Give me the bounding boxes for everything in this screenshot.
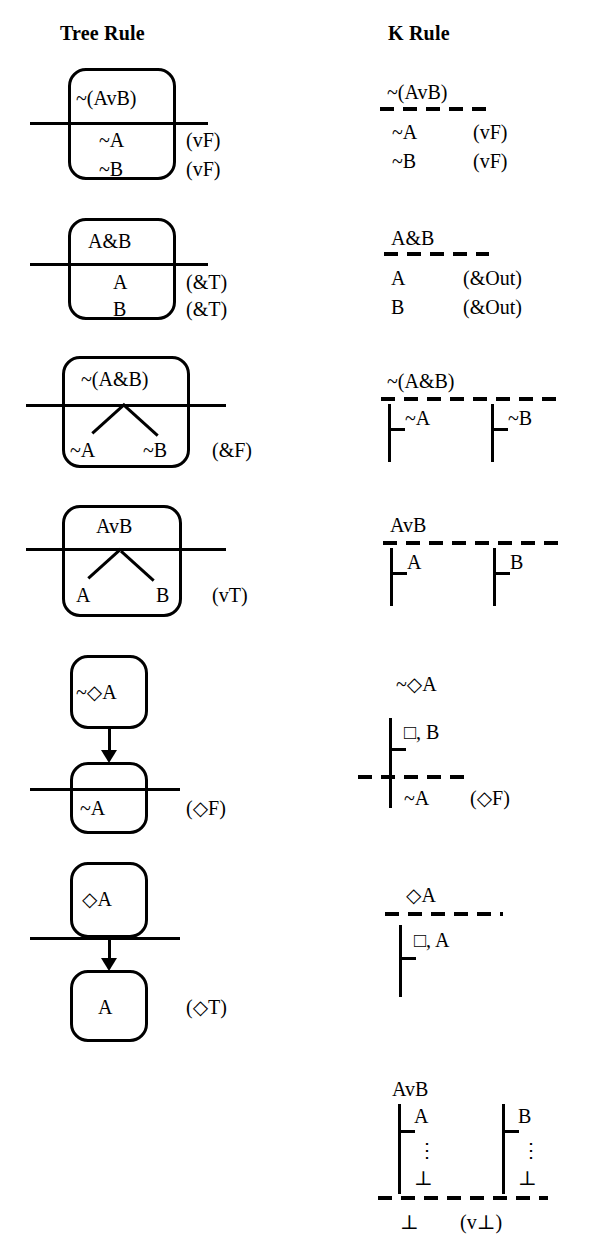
- tree-premise: ◇A: [82, 889, 112, 909]
- k-premise: ~◇A: [396, 674, 437, 694]
- tree-divider-line: [30, 122, 208, 125]
- k-dashed-divider: [380, 107, 490, 111]
- column-header-k-rule: K Rule: [388, 22, 450, 45]
- k-turnstile-bar-right: [491, 404, 494, 462]
- k-turnstile-bar-left: [398, 1104, 401, 1194]
- tree-branch-2: B: [156, 585, 169, 605]
- column-header-tree-rule: Tree Rule: [60, 22, 145, 45]
- k-turnstile-tick-left: [390, 572, 407, 575]
- tree-divider-line: [30, 937, 180, 940]
- k-dashed-divider: [384, 252, 489, 256]
- k-rule-label-2: (vF): [473, 151, 507, 171]
- tree-premise: ~◇A: [76, 682, 117, 702]
- k-conclusion: ⊥: [400, 1212, 419, 1232]
- tree-premise: A&B: [88, 231, 131, 251]
- tree-branch-1: A: [76, 585, 90, 605]
- k-turnstile-tick: [389, 748, 406, 751]
- k-rule-label: (◇F): [470, 788, 510, 808]
- k-turnstile-bar-left: [390, 548, 393, 606]
- k-dashed-divider: [358, 775, 466, 779]
- k-rule-label-1: (&Out): [463, 268, 522, 288]
- k-conclusion-2: ~B: [392, 151, 416, 171]
- k-premise: ~(A&B): [387, 371, 454, 391]
- k-rule-label-1: (vF): [473, 122, 507, 142]
- k-turnstile-tick-left: [388, 428, 405, 431]
- tree-rule-label: (&F): [212, 440, 252, 460]
- k-branch-end-2: ⊥: [518, 1168, 537, 1188]
- k-conclusion-1: ~A: [392, 122, 417, 142]
- k-turnstile-bar: [389, 718, 392, 808]
- k-premise: ◇A: [406, 885, 436, 905]
- tree-divider-line: [30, 263, 208, 266]
- k-turnstile-tick-right: [491, 428, 508, 431]
- tree-conclusion: ~A: [80, 798, 105, 818]
- tree-rule-label: (vT): [212, 585, 248, 605]
- k-ellipsis-1: ⋮: [417, 1140, 437, 1160]
- tree-premise: ~(A&B): [81, 369, 148, 389]
- k-turnstile-bar-right: [493, 548, 496, 606]
- tree-rule-label-1: (&T): [186, 272, 227, 292]
- rules-comparison-figure: Tree Rule K Rule ~(AvB) ~A ~B (vF) (vF) …: [0, 0, 599, 1258]
- k-branch-2: ~B: [508, 408, 532, 428]
- k-dashed-divider: [385, 912, 503, 916]
- tree-conclusion-1: A: [113, 272, 127, 292]
- k-turnstile-tick-right: [493, 572, 510, 575]
- k-turnstile-tick: [399, 957, 416, 960]
- tree-branch-2: ~B: [143, 440, 167, 460]
- tree-rule-label-1: (vF): [186, 130, 220, 150]
- k-turnstile-tick-left: [398, 1130, 415, 1133]
- k-dashed-divider: [383, 541, 565, 545]
- tree-rule-label: (◇T): [186, 997, 227, 1017]
- tree-divider-line: [26, 548, 226, 551]
- k-premise: ~(AvB): [387, 82, 447, 102]
- k-branch-2: B: [510, 552, 523, 572]
- tree-conclusion-2: B: [113, 299, 126, 319]
- k-rule-label: (v⊥): [460, 1212, 502, 1232]
- k-conclusion-1: A: [391, 268, 405, 288]
- tree-conclusion-1: ~A: [99, 130, 124, 150]
- tree-rule-label: (◇F): [186, 798, 226, 818]
- tree-branch-1: ~A: [70, 440, 95, 460]
- k-assumption-1: A: [414, 1106, 428, 1126]
- k-turnstile-bar-right: [502, 1104, 505, 1194]
- k-conclusion-2: B: [391, 297, 404, 317]
- k-premise: AvB: [390, 515, 426, 535]
- tree-premise: ~(AvB): [76, 88, 136, 108]
- k-branch-1: A: [407, 552, 421, 572]
- k-world-label: □, A: [414, 930, 449, 950]
- k-branch-1: ~A: [405, 408, 430, 428]
- tree-rule-label-2: (vF): [186, 159, 220, 179]
- k-ellipsis-2: ⋮: [521, 1140, 541, 1160]
- tree-divider-line: [30, 788, 180, 791]
- tree-conclusion: A: [98, 997, 112, 1017]
- k-dashed-divider: [381, 397, 563, 401]
- k-premise: AvB: [392, 1079, 428, 1099]
- k-turnstile-bar-left: [388, 404, 391, 462]
- k-conclusion: ~A: [404, 788, 429, 808]
- k-turnstile-tick-right: [502, 1130, 519, 1133]
- tree-conclusion-2: ~B: [99, 159, 123, 179]
- k-rule-label-2: (&Out): [463, 297, 522, 317]
- k-premise: A&B: [391, 228, 434, 248]
- k-branch-end-1: ⊥: [414, 1168, 433, 1188]
- k-assumption-2: B: [518, 1106, 531, 1126]
- tree-rule-label-2: (&T): [186, 299, 227, 319]
- k-turnstile-bar: [399, 925, 402, 997]
- k-world-label: □, B: [404, 722, 439, 742]
- k-dashed-divider: [378, 1196, 548, 1200]
- tree-premise: AvB: [96, 516, 132, 536]
